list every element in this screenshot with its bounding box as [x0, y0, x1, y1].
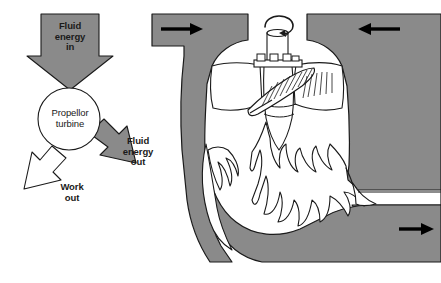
flange-bolt-1 [257, 54, 265, 61]
flange-bolt-4 [292, 56, 299, 61]
draft-tube-cavity [250, 122, 364, 226]
turbine-diagram-figure: Fluid energy in Propellor turbine Fluid … [0, 0, 441, 283]
work-out-label: Work out [51, 182, 93, 203]
fluid-energy-out-label: Fluid energy out [114, 136, 162, 168]
blade-left [211, 63, 262, 110]
flange-bolt-3 [283, 54, 291, 61]
propellor-turbine-label: Propellor turbine [41, 108, 99, 129]
flange-bolt-2 [270, 54, 278, 61]
fluid-energy-in-label: Fluid energy in [44, 21, 96, 53]
